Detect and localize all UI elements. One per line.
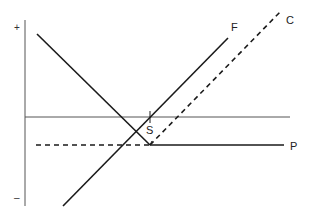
axis-plus-label: +: [14, 22, 20, 33]
diagram-canvas: + – F C P S: [0, 0, 312, 218]
line-C: [150, 10, 282, 145]
label-C: C: [286, 14, 294, 26]
label-F: F: [231, 21, 238, 33]
line-F: [63, 38, 228, 206]
label-S: S: [146, 124, 153, 136]
axis-minus-label: –: [14, 192, 20, 203]
label-P: P: [290, 140, 297, 152]
descending-line: [37, 34, 150, 145]
